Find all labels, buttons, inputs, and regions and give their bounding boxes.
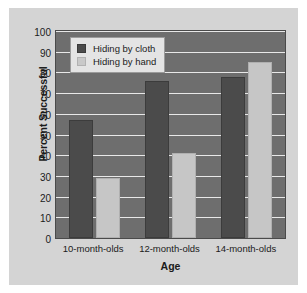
legend-item: Hiding by hand [77, 55, 156, 68]
y-axis-tick: 60 [25, 111, 51, 121]
bar [221, 77, 245, 238]
y-axis-tick: 10 [25, 214, 51, 224]
y-axis-tick-labels: 1009080706050403020100 [25, 32, 51, 247]
y-axis-tick: 100 [25, 28, 51, 38]
y-axis-tick: 20 [25, 194, 51, 204]
bar [69, 120, 93, 238]
y-axis-tick: 80 [25, 69, 51, 79]
x-axis-label: Age [55, 260, 286, 272]
plot-area: Hiding by cloth Hiding by hand [55, 30, 286, 239]
bar [145, 81, 169, 238]
y-axis-tick: 30 [25, 173, 51, 183]
y-axis-tick: 90 [25, 49, 51, 59]
bar-group [209, 31, 285, 238]
chart-card: Percent Successful 100908070605040302010… [9, 8, 298, 285]
x-axis-tick: 12-month-olds [131, 243, 207, 254]
x-axis-tick: 14-month-olds [208, 243, 284, 254]
bar [96, 178, 120, 238]
x-axis-tick: 10-month-olds [55, 243, 131, 254]
y-axis-tick: 70 [25, 90, 51, 100]
legend: Hiding by cloth Hiding by hand [70, 37, 165, 73]
bar [248, 62, 272, 238]
legend-swatch-icon [77, 44, 86, 53]
figure: Percent Successful 100908070605040302010… [0, 0, 307, 293]
y-axis-tick: 0 [25, 235, 51, 245]
bar [172, 153, 196, 238]
x-axis-tick-labels: 10-month-olds12-month-olds14-month-olds [55, 243, 286, 257]
legend-label: Hiding by hand [93, 56, 156, 67]
legend-label: Hiding by cloth [93, 43, 155, 54]
legend-item: Hiding by cloth [77, 42, 156, 55]
y-axis-tick: 50 [25, 132, 51, 142]
y-axis-tick: 40 [25, 152, 51, 162]
legend-swatch-icon [77, 57, 86, 66]
